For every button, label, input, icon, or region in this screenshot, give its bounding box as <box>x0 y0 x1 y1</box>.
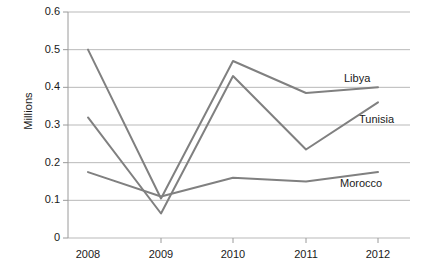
gridlines <box>68 12 410 238</box>
series-line-tunisia <box>88 76 378 213</box>
axis-ticks <box>63 12 378 243</box>
data-series <box>88 50 378 214</box>
line-chart: Millions 00.10.20.30.40.50.6 20082009201… <box>0 0 424 270</box>
plot-area <box>0 0 424 270</box>
